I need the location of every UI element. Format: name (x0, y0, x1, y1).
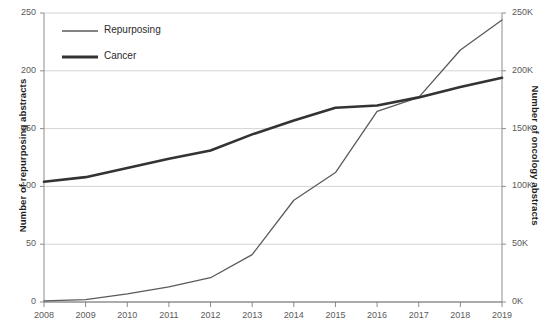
x-tick-label: 2018 (438, 310, 482, 320)
right-tick-label: 100K (512, 180, 552, 190)
x-tick-label: 2013 (230, 310, 274, 320)
right-tick-label: 0K (512, 296, 552, 306)
x-tick-label: 2008 (22, 310, 66, 320)
x-tick-label: 2011 (147, 310, 191, 320)
x-tick-label: 2017 (397, 310, 441, 320)
series-line-cancer (44, 78, 502, 182)
left-tick-label: 200 (2, 65, 36, 75)
right-tick-label: 200K (512, 65, 552, 75)
x-tick-marks (44, 302, 502, 307)
series-line-repurposing (44, 20, 502, 301)
x-tick-label: 2014 (272, 310, 316, 320)
x-tick-label: 2009 (64, 310, 108, 320)
series-lines (44, 20, 502, 301)
x-tick-label: 2015 (313, 310, 357, 320)
left-tick-label: 250 (2, 7, 36, 17)
x-tick-label: 2016 (355, 310, 399, 320)
right-tick-marks (502, 13, 506, 302)
left-tick-label: 50 (2, 238, 36, 248)
x-tick-label: 2012 (189, 310, 233, 320)
right-tick-label: 150K (512, 123, 552, 133)
legend-label-repurposing: Repurposing (104, 24, 161, 35)
left-tick-label: 100 (2, 180, 36, 190)
line-chart: Number of repurposing abstracts Number o… (0, 0, 552, 332)
legend-swatches (62, 31, 98, 57)
right-tick-label: 50K (512, 238, 552, 248)
left-tick-label: 150 (2, 123, 36, 133)
left-tick-label: 0 (2, 296, 36, 306)
plot-area (0, 0, 552, 332)
x-tick-label: 2010 (105, 310, 149, 320)
right-tick-label: 250K (512, 7, 552, 17)
x-tick-label: 2019 (480, 310, 524, 320)
left-tick-marks (40, 13, 44, 302)
legend-label-cancer: Cancer (104, 50, 136, 61)
